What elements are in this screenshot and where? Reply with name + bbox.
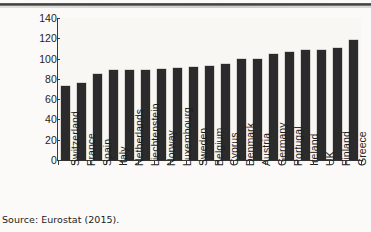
- y-axis-tick-mark: [57, 59, 60, 60]
- x-axis-category-label: Liechtenstein: [150, 103, 161, 166]
- x-axis-tick-mark: [233, 161, 234, 165]
- x-axis-tick-mark: [249, 161, 250, 165]
- x-axis-tick-mark: [74, 161, 75, 165]
- x-axis-tick-mark: [186, 161, 187, 165]
- x-axis-category-label: Cyprus: [229, 132, 240, 166]
- y-axis-tick-label: 120: [5, 33, 57, 44]
- x-axis-tick-mark: [90, 161, 91, 165]
- x-axis-category-label: Portugal: [293, 126, 304, 166]
- x-axis-category-label: Sweden: [198, 128, 209, 166]
- bar-chart-figure: 020406080100120140 SwitzerlandFranceSpai…: [0, 10, 371, 208]
- x-axis-tick-mark: [170, 161, 171, 165]
- y-axis-tick-label: 60: [5, 94, 57, 105]
- x-axis-tick-mark: [217, 161, 218, 165]
- y-axis-tick-label: 100: [5, 53, 57, 64]
- x-axis-category-label: Ireland: [309, 134, 320, 166]
- y-axis-tick-label: 0: [5, 155, 57, 166]
- x-axis-category-label: Spain: [102, 139, 113, 166]
- y-axis-tick-mark: [57, 18, 60, 19]
- x-axis-category-label: Luxembourg: [182, 107, 193, 166]
- y-axis-labels: 020406080100120140: [0, 10, 57, 208]
- x-axis-category-label: Netherlands: [134, 109, 145, 166]
- y-axis-tick-label: 40: [5, 114, 57, 125]
- x-axis-category-label: Denmark: [245, 123, 256, 166]
- x-axis-tick-mark: [281, 161, 282, 165]
- x-axis-tick-mark: [361, 161, 362, 165]
- x-axis-category-label: Belgium: [214, 128, 225, 166]
- y-axis-tick-label: 20: [5, 134, 57, 145]
- x-axis-category-label: Switzerland: [70, 111, 81, 166]
- x-axis-tick-mark: [106, 161, 107, 165]
- x-axis-category-label: Austria: [261, 133, 272, 166]
- x-axis-tick-mark: [313, 161, 314, 165]
- x-axis-tick-mark: [154, 161, 155, 165]
- x-axis-tick-mark: [265, 161, 266, 165]
- x-axis-tick-mark: [297, 161, 298, 165]
- x-axis-category-label: Norway: [166, 130, 177, 166]
- x-axis-tick-mark: [58, 161, 59, 165]
- page-top-rule-shadow: [0, 6, 371, 8]
- y-axis-tick-mark: [57, 99, 60, 100]
- source-caption: Source: Eurostat (2015).: [2, 214, 119, 225]
- x-axis-category-label: Greece: [357, 131, 368, 166]
- x-axis-tick-mark: [345, 161, 346, 165]
- x-axis-tick-mark: [138, 161, 139, 165]
- y-axis-tick-mark: [57, 79, 60, 80]
- x-axis-tick-mark: [202, 161, 203, 165]
- x-axis-category-label: Italy: [118, 146, 129, 166]
- x-axis-category-label: Finland: [341, 131, 352, 166]
- x-axis-category-label: UK: [325, 151, 336, 166]
- x-axis-category-label: Germany: [277, 122, 288, 166]
- y-axis-tick-label: 80: [5, 74, 57, 85]
- y-axis-tick-mark: [57, 140, 60, 141]
- x-axis-tick-mark: [122, 161, 123, 165]
- y-axis-tick-mark: [57, 119, 60, 120]
- y-axis-tick-label: 140: [5, 13, 57, 24]
- y-axis-tick-mark: [57, 38, 60, 39]
- x-axis-tick-mark: [329, 161, 330, 165]
- x-axis-category-label: France: [86, 133, 97, 166]
